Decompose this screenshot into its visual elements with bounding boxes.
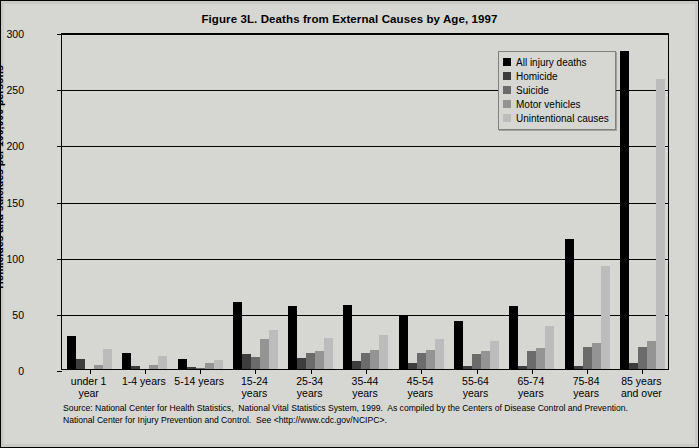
bar <box>343 305 352 369</box>
bar-group <box>117 34 172 369</box>
bar <box>629 363 638 369</box>
bar-group <box>283 34 338 369</box>
bar <box>463 366 472 369</box>
source-note: Source: National Center for Health Stati… <box>63 403 687 426</box>
bar <box>149 365 158 369</box>
legend-swatch-icon <box>503 72 511 80</box>
bar <box>251 357 260 369</box>
x-axis-tick <box>532 369 533 374</box>
bar <box>379 335 388 369</box>
x-axis-tick <box>200 369 201 374</box>
bar <box>122 353 131 369</box>
bar <box>417 353 426 369</box>
x-axis-tick <box>145 369 146 374</box>
bar <box>399 315 408 369</box>
x-axis-tick <box>587 369 588 374</box>
bar-group <box>338 34 393 369</box>
bar <box>324 338 333 369</box>
legend-swatch-icon <box>503 58 511 66</box>
legend-item: All injury deaths <box>503 55 609 69</box>
bar-group <box>615 34 670 369</box>
y-axis-tick-label: 150 <box>0 197 24 209</box>
bar <box>574 366 583 369</box>
y-axis-tick-label: 250 <box>0 84 24 96</box>
bar <box>454 321 463 369</box>
y-axis-tick-label: 200 <box>0 140 24 152</box>
source-line-1: Source: National Center for Health Stati… <box>63 403 687 415</box>
bar <box>426 350 435 369</box>
y-axis-tick-label: 50 <box>0 309 24 321</box>
y-axis-tick <box>57 371 62 372</box>
bar <box>601 266 610 369</box>
y-axis-tick-label: 0 <box>0 365 24 377</box>
legend-item: Homicide <box>503 69 609 83</box>
bar <box>408 363 417 369</box>
bar <box>361 353 370 369</box>
x-axis-tick <box>477 369 478 374</box>
bar <box>103 349 112 369</box>
figure-panel: Figure 3L. Deaths from External Causes b… <box>0 0 699 448</box>
bar <box>297 358 306 369</box>
bar <box>260 339 269 369</box>
bar <box>527 351 536 369</box>
x-axis-tick <box>642 369 643 374</box>
legend-swatch-icon <box>503 114 511 122</box>
bar-group <box>62 34 117 369</box>
bar <box>76 359 85 369</box>
bar <box>94 365 103 369</box>
x-axis-tick <box>90 369 91 374</box>
bar <box>269 330 278 369</box>
y-axis-tick-label: 100 <box>0 253 24 265</box>
bar <box>545 326 554 369</box>
bar <box>656 79 665 369</box>
x-axis-tick <box>421 369 422 374</box>
bar <box>242 354 251 369</box>
legend-swatch-icon <box>503 100 511 108</box>
bar <box>435 339 444 369</box>
bar <box>352 361 361 369</box>
bar <box>647 341 656 369</box>
bar <box>583 347 592 369</box>
legend-item-label: Homicide <box>516 71 558 82</box>
x-axis-category-label: 85 years and over <box>608 375 675 399</box>
bar <box>178 359 187 369</box>
bar <box>233 302 242 369</box>
source-line-2: National Center for Injury Prevention an… <box>63 415 687 427</box>
bar <box>288 306 297 369</box>
bar <box>187 367 196 369</box>
bar <box>565 239 574 369</box>
x-axis-tick <box>255 369 256 374</box>
y-axis-tick-label: 300 <box>0 28 24 40</box>
bar <box>67 336 76 369</box>
bar <box>315 351 324 369</box>
bar <box>472 354 481 369</box>
legend-item: Suicide <box>503 83 609 97</box>
chart-title: Figure 3L. Deaths from External Causes b… <box>1 13 698 25</box>
bar <box>481 351 490 369</box>
bar-group <box>449 34 504 369</box>
bar <box>214 360 223 369</box>
bar-group <box>394 34 449 369</box>
legend-item-label: Motor vehicles <box>516 99 580 110</box>
bar <box>306 353 315 369</box>
legend-swatch-icon <box>503 86 511 94</box>
x-axis-tick <box>311 369 312 374</box>
bar <box>158 356 167 369</box>
bar <box>592 343 601 369</box>
chart-legend: All injury deathsHomicideSuicideMotor ve… <box>498 51 616 130</box>
bar <box>490 341 499 369</box>
bar-group <box>173 34 228 369</box>
bar <box>509 306 518 369</box>
legend-item: Motor vehicles <box>503 97 609 111</box>
bar <box>638 347 647 369</box>
legend-item: Unintentional causes <box>503 111 609 125</box>
legend-item-label: All injury deaths <box>516 57 587 68</box>
bar <box>205 363 214 369</box>
bar-group <box>228 34 283 369</box>
bar <box>131 366 140 369</box>
bar <box>620 51 629 369</box>
bar <box>536 348 545 369</box>
bar <box>518 366 527 369</box>
legend-item-label: Suicide <box>516 85 549 96</box>
legend-item-label: Unintentional causes <box>516 113 609 124</box>
